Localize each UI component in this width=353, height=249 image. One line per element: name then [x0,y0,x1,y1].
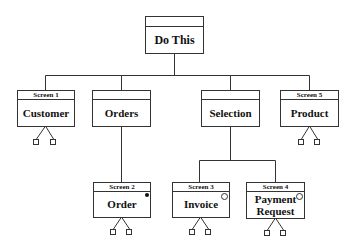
box-selection-label: Selection [202,99,259,126]
invoice-child-square-icon [189,229,195,235]
box-order-label: Order [94,191,150,217]
open-circle-icon [221,193,228,200]
box-payment-request[interactable]: Screen 4 Payment Request [246,182,305,219]
customer-child-square-icon [33,139,39,145]
box-order[interactable]: Screen 2 Order [93,182,151,218]
payment-request-line-1: Payment [255,193,297,205]
order-child-square-icon [110,229,116,235]
product-child-square-icon [314,139,320,145]
root-box-do-this[interactable]: Do This [145,16,204,54]
payment-child-square-icon [264,230,270,236]
invoice-child-square-icon [205,229,211,235]
box-orders-label: Orders [93,99,150,126]
open-circle-icon [296,193,303,200]
order-child-square-icon [126,229,132,235]
box-orders[interactable]: Orders [92,90,151,127]
box-customer[interactable]: Screen 1 Customer [17,90,75,127]
customer-child-square-icon [50,139,56,145]
root-box-label: Do This [146,26,203,53]
box-invoice[interactable]: Screen 3 Invoice [172,182,230,218]
filled-dot-icon [145,193,149,197]
product-child-square-icon [298,139,304,145]
payment-child-square-icon [280,230,286,236]
box-product[interactable]: Screen 5 Product [280,90,339,127]
box-product-label: Product [281,99,338,126]
box-customer-label: Customer [18,99,74,126]
box-selection[interactable]: Selection [201,90,260,127]
payment-request-line-2: Request [257,205,295,217]
